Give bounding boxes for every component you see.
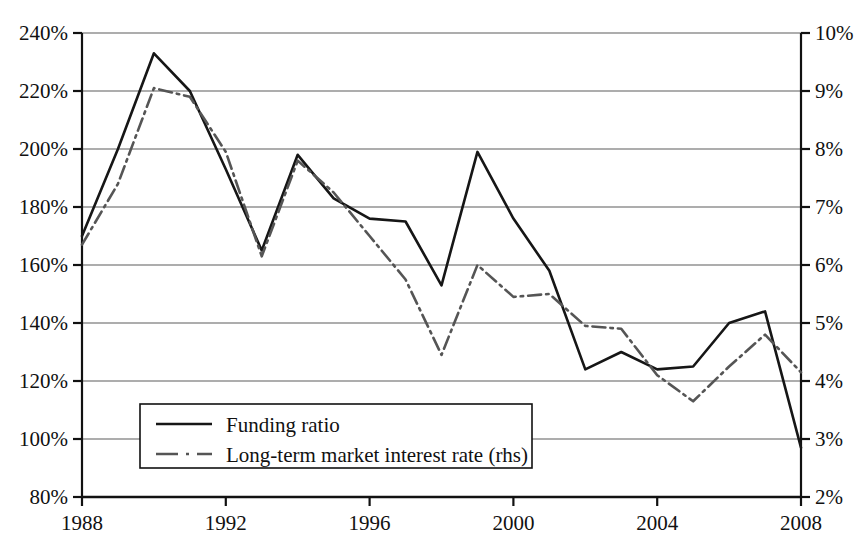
x-axis-tick-label: 1992 — [205, 511, 247, 535]
x-axis-tick-label: 2000 — [492, 511, 534, 535]
y-axis-right-tick-label: 6% — [815, 253, 843, 277]
y-axis-right-tick-label: 10% — [815, 21, 854, 45]
y-axis-left-tick-label: 160% — [19, 253, 68, 277]
y-axis-right-tick-label: 4% — [815, 369, 843, 393]
x-axis-tick-label: 1996 — [349, 511, 391, 535]
chart-container: 80%100%120%140%160%180%200%220%240% 2%3%… — [0, 0, 864, 552]
legend-label-1: Long-term market interest rate (rhs) — [226, 443, 528, 467]
series-line-1 — [82, 88, 801, 401]
y-axis-left-tick-label: 140% — [19, 311, 68, 335]
y-axis-right-tick-label: 8% — [815, 137, 843, 161]
x-axis-tick-label: 2004 — [636, 511, 679, 535]
data-series — [82, 53, 801, 447]
y-axis-right: 2%3%4%5%6%7%8%9%10% — [801, 21, 854, 509]
series-line-0 — [82, 53, 801, 447]
x-axis-tick-label: 1988 — [61, 511, 103, 535]
x-axis: 198819921996200020042008 — [61, 497, 822, 535]
y-axis-right-tick-label: 5% — [815, 311, 843, 335]
y-axis-left: 80%100%120%140%160%180%200%220%240% — [19, 21, 82, 509]
legend-label-0: Funding ratio — [226, 413, 340, 437]
y-axis-left-tick-label: 220% — [19, 79, 68, 103]
y-axis-right-tick-label: 9% — [815, 79, 843, 103]
y-axis-left-tick-label: 180% — [19, 195, 68, 219]
y-axis-left-tick-label: 80% — [30, 485, 69, 509]
y-axis-left-tick-label: 120% — [19, 369, 68, 393]
y-axis-left-tick-label: 100% — [19, 427, 68, 451]
y-axis-right-tick-label: 3% — [815, 427, 843, 451]
y-axis-left-tick-label: 200% — [19, 137, 68, 161]
y-axis-right-tick-label: 2% — [815, 485, 843, 509]
x-axis-tick-label: 2008 — [780, 511, 822, 535]
y-axis-left-tick-label: 240% — [19, 21, 68, 45]
line-chart: 80%100%120%140%160%180%200%220%240% 2%3%… — [0, 0, 864, 552]
chart-legend: Funding ratioLong-term market interest r… — [140, 404, 532, 468]
y-axis-right-tick-label: 7% — [815, 195, 843, 219]
